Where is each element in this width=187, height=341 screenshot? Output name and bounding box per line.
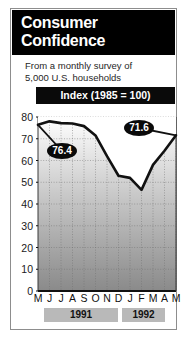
x-axis-tick-12: M	[169, 292, 183, 304]
y-axis-tick-10: 10	[15, 264, 33, 274]
consumer-confidence-infographic: Consumer Confidence From a monthly surve…	[0, 0, 187, 341]
y-axis-tick-40: 40	[15, 199, 33, 209]
y-axis-tick-80: 80	[15, 112, 33, 122]
y-axis-tick-60: 60	[15, 156, 33, 166]
callout-first-value: 76.4	[47, 143, 77, 159]
callout-last-value: 71.6	[124, 120, 154, 136]
callout-value: 71.6	[124, 120, 154, 136]
year-band-1991: 1991	[44, 308, 118, 322]
y-axis-tick-20: 20	[15, 243, 33, 253]
y-axis-tick-30: 30	[15, 221, 33, 231]
y-axis-tick-70: 70	[15, 134, 33, 144]
chart-area: 80706050403020100 MJJASONDJFMAM 19911992…	[0, 0, 187, 341]
y-axis-tick-50: 50	[15, 177, 33, 187]
year-band-1992: 1992	[122, 308, 165, 322]
callout-value: 76.4	[47, 143, 77, 159]
